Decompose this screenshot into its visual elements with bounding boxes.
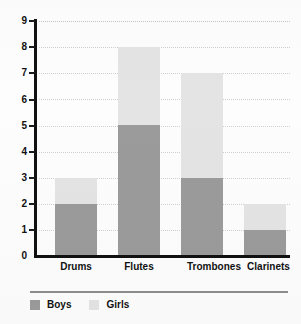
legend: Boys Girls [30,300,129,310]
bar-segment-boys-drums [55,204,97,256]
legend-label-girls: Girls [106,300,129,310]
y-tick-label-5: 5 [3,121,27,131]
y-tick-label-2: 2 [3,199,27,209]
y-axis-labels: 9 8 7 6 5 4 3 2 1 0 [0,0,27,324]
bar-segment-boys-clarinets [244,230,286,256]
y-tick-label-1: 1 [3,225,27,235]
y-tick-label-3: 3 [3,173,27,183]
legend-label-boys: Boys [47,300,71,310]
bar-segment-girls-drums [55,178,97,204]
y-tick-9 [29,20,35,22]
bar-stack-flutes [118,47,160,256]
y-tick-1 [29,229,35,231]
category-label-drums: Drums [55,261,97,273]
category-label-flutes: Flutes [118,261,160,273]
bar-segment-boys-trombones [181,178,223,256]
y-tick-5 [29,125,35,127]
category-label-clarinets: Clarinets [231,261,301,273]
y-tick-label-0: 0 [3,251,27,261]
legend-swatch-girls-icon [89,300,99,310]
y-tick-8 [29,46,35,48]
legend-swatch-boys-icon [30,300,40,310]
bar-group-clarinets [244,0,286,324]
bar-segment-girls-trombones [181,73,223,177]
y-tick-label-6: 6 [3,95,27,105]
bar-group-trombones [181,0,223,324]
legend-item-girls: Girls [89,300,129,310]
bar-segment-boys-flutes [118,125,160,256]
bar-stack-clarinets [244,204,286,256]
bars-layer [37,0,290,324]
bar-stack-trombones [181,73,223,256]
y-axis-line [34,19,37,258]
legend-divider [30,291,288,293]
y-tick-6 [29,99,35,101]
y-tick-label-9: 9 [3,16,27,26]
legend-item-boys: Boys [30,300,71,310]
y-tick-4 [29,151,35,153]
x-axis-line [34,255,290,258]
y-tick-7 [29,72,35,74]
bar-group-drums [55,0,97,324]
bar-group-flutes [118,0,160,324]
bar-segment-girls-flutes [118,47,160,125]
stacked-bar-chart: 9 8 7 6 5 4 3 2 1 0 Drums Flutes Trombon… [0,0,301,324]
y-tick-3 [29,177,35,179]
bar-stack-drums [55,178,97,256]
y-tick-label-4: 4 [3,147,27,157]
bar-segment-girls-clarinets [244,204,286,230]
y-tick-label-8: 8 [3,42,27,52]
y-tick-2 [29,203,35,205]
y-tick-label-7: 7 [3,68,27,78]
